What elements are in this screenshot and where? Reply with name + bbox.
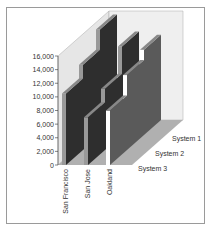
bar-chart-3d: 02,0004,0006,0008,00010,00012,00014,0001… — [0, 0, 212, 231]
series-label: System 1 — [172, 135, 201, 143]
bar-side — [66, 78, 83, 165]
y-tick-label: 0 — [50, 162, 54, 169]
bar-side — [144, 35, 161, 135]
y-tick-label: 16,000 — [33, 53, 55, 60]
category-label: Oakland — [106, 169, 113, 195]
bar-front — [84, 117, 88, 165]
y-tick-label: 6,000 — [36, 121, 54, 128]
series-label: System 2 — [155, 150, 184, 158]
y-tick-label: 4,000 — [36, 134, 54, 141]
y-tick-label: 10,000 — [33, 93, 55, 100]
category-label: San Francisco — [62, 169, 69, 214]
bar-front — [106, 111, 110, 166]
y-tick-label: 12,000 — [33, 80, 55, 87]
category-label: San Jose — [84, 169, 91, 198]
y-tick-label: 8,000 — [36, 107, 54, 114]
y-tick-label: 2,000 — [36, 148, 54, 155]
y-tick-label: 14,000 — [33, 66, 55, 73]
bar-front — [62, 93, 66, 165]
series-label: System 3 — [138, 165, 167, 173]
bar-side — [127, 60, 144, 150]
